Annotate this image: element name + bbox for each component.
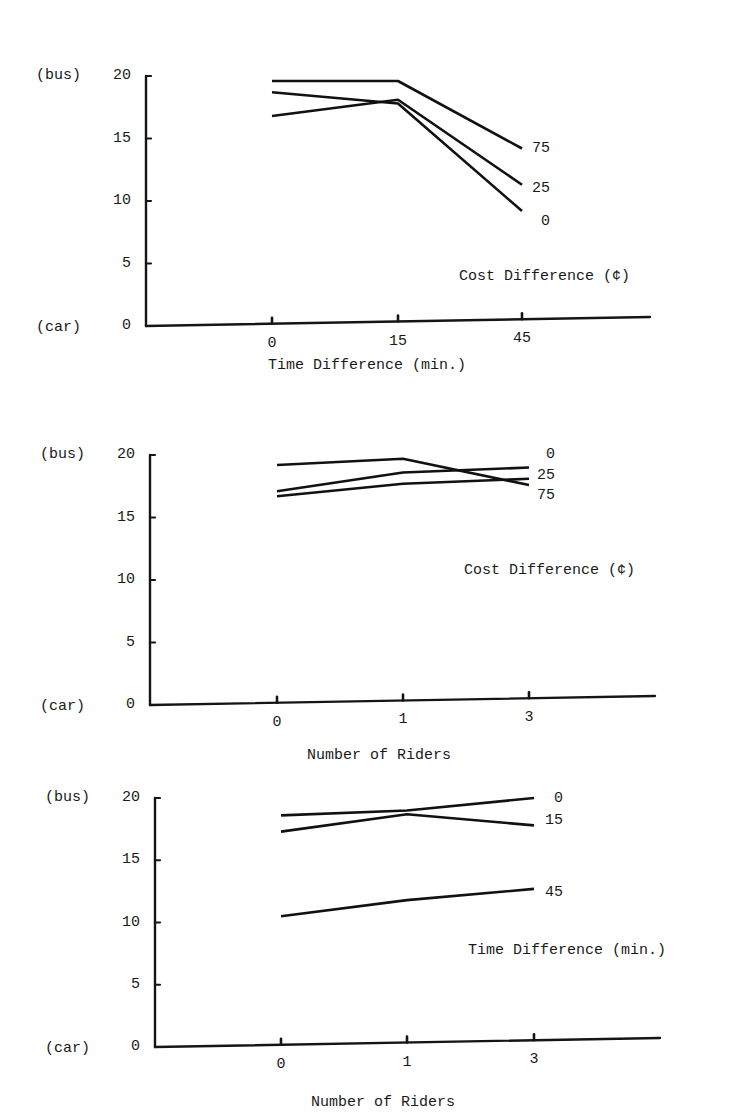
y-tick-label: 20 [110, 790, 140, 805]
series-end-label: 15 [545, 813, 563, 828]
bus-label: (bus) [45, 790, 90, 805]
y-tick-label: 5 [110, 977, 140, 992]
y-tick-label: 0 [110, 1039, 140, 1054]
x-tick-label: 3 [530, 1052, 539, 1067]
series-line-15 [281, 814, 534, 831]
car-label: (car) [45, 1041, 90, 1056]
x-tick-label: 1 [403, 1055, 412, 1070]
y-tick-label: 15 [110, 852, 140, 867]
y-tick-label: 10 [110, 915, 140, 930]
series-end-label: 0 [554, 791, 563, 806]
x-axis-title: Number of Riders [311, 1095, 455, 1110]
legend-title: Time Difference (min.) [468, 943, 666, 958]
series-end-label: 45 [545, 885, 563, 900]
x-tick-label: 0 [277, 1057, 286, 1072]
series-line-45 [281, 889, 534, 916]
series-line-0 [281, 798, 534, 815]
